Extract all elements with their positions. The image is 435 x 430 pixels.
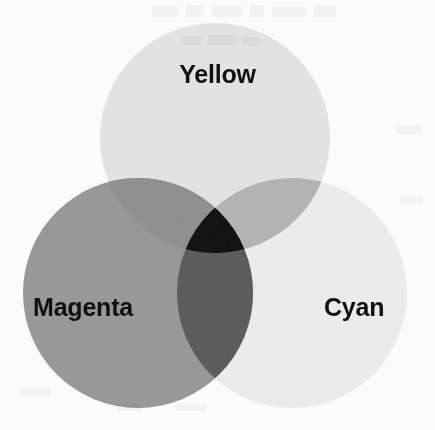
venn-label-yellow: Yellow [0, 62, 435, 87]
cmy-venn-diagram: Yellow Magenta Cyan [0, 0, 435, 430]
venn-label-cyan: Cyan [324, 295, 384, 320]
venn-label-magenta: Magenta [33, 295, 133, 320]
